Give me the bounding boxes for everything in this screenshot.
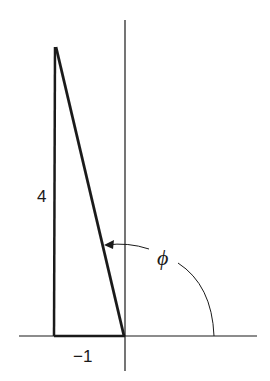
horizontal-side-label: −1	[73, 347, 92, 366]
arrowhead-icon	[104, 240, 114, 249]
angle-label: ϕ	[157, 245, 168, 270]
diagram-canvas: 4 −1 ϕ	[0, 0, 270, 381]
hypotenuse-vector	[56, 47, 124, 336]
vertical-leg	[54, 47, 55, 336]
angle-arc	[178, 263, 214, 336]
vertical-side-label: 4	[37, 187, 46, 206]
